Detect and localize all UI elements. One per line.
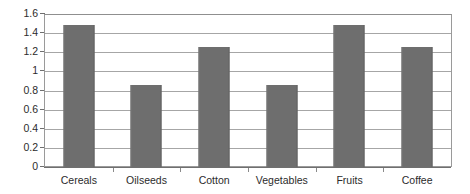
x-axis-label: Cotton [199, 174, 230, 186]
x-axis-label: Cereals [61, 174, 97, 186]
y-axis-label: 0.6 [2, 104, 38, 114]
bar [131, 85, 162, 167]
x-axis-label: Fruits [336, 174, 362, 186]
x-axis-label: Coffee [402, 174, 433, 186]
x-axis-tick [113, 168, 114, 172]
bar [266, 85, 297, 167]
bar [199, 47, 230, 167]
y-axis-label: 0 [2, 161, 38, 171]
x-axis-label: Oilseeds [126, 174, 167, 186]
y-axis-label: 1.6 [2, 8, 38, 18]
bar [334, 25, 365, 167]
bar [402, 47, 433, 167]
bar-slot [45, 14, 113, 167]
y-axis-label: 1.4 [2, 27, 38, 37]
bar-slot [180, 14, 248, 167]
bar [63, 25, 94, 167]
x-axis-tick [248, 168, 249, 172]
bar-slot [248, 14, 316, 167]
bars-layer [45, 14, 451, 167]
y-axis-label: 0.8 [2, 85, 38, 95]
y-axis-label: 0.4 [2, 123, 38, 133]
x-axis-label: Vegetables [256, 174, 308, 186]
y-axis-label: 1 [2, 65, 38, 75]
bar-slot [316, 14, 384, 167]
y-axis-label: 1.2 [2, 46, 38, 56]
x-axis-tick [383, 168, 384, 172]
bar-chart: 00.20.40.60.811.21.41.6 CerealsOilseedsC… [0, 0, 470, 194]
bar-slot [383, 14, 451, 167]
bar-slot [113, 14, 181, 167]
x-axis-tick [316, 168, 317, 172]
x-axis-tick [180, 168, 181, 172]
y-axis-label: 0.2 [2, 142, 38, 152]
